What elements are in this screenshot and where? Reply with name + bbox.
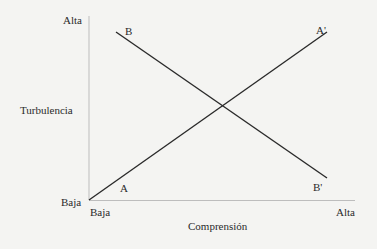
line-a-start-label: A: [120, 182, 128, 194]
y-axis-low-label: Baja: [61, 196, 81, 208]
y-axis-high-label: Alta: [63, 14, 82, 26]
line-a-end-label: A': [316, 24, 326, 36]
line-b-start-label: B: [125, 25, 132, 37]
diagram-canvas: [0, 0, 377, 249]
x-axis-title: Comprensión: [188, 220, 247, 232]
line-a: [89, 32, 327, 200]
y-axis-title: Turbulencia: [20, 104, 73, 116]
x-axis-low-label: Baja: [90, 206, 110, 218]
x-axis-high-label: Alta: [336, 206, 355, 218]
line-b-end-label: B': [313, 181, 322, 193]
